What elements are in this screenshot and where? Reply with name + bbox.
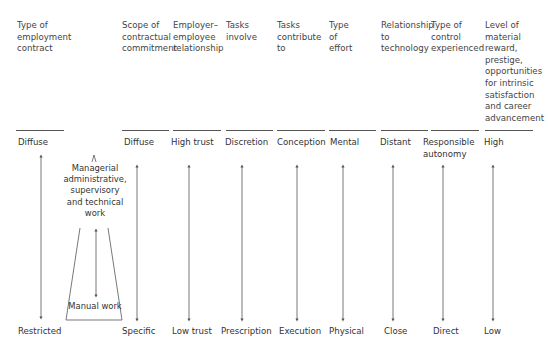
apex-mark (92, 155, 96, 162)
manual-work-label: Manual work (66, 301, 124, 312)
managerial-work-label: Managerial administrative, supervisory a… (58, 163, 132, 219)
